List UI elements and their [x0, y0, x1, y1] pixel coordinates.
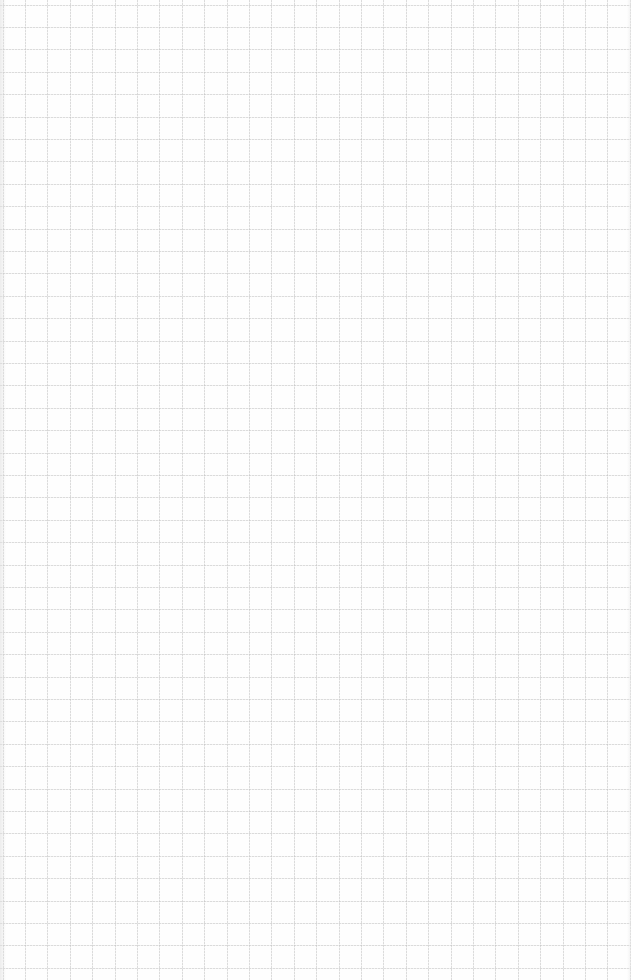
horizontal-grid-lines	[0, 0, 631, 980]
graph-paper-sheet	[0, 0, 631, 980]
left-edge-shadow	[0, 0, 6, 980]
right-edge-shadow	[627, 0, 631, 980]
vertical-grid-lines	[0, 0, 631, 980]
